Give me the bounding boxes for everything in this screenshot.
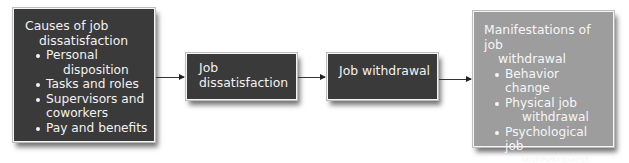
job-dissatisfaction-box: Job dissatisfaction: [186, 53, 297, 100]
causes-title-line1: Causes of job: [25, 18, 108, 33]
item-text: Psychological job: [505, 125, 587, 154]
arrow-2: [298, 77, 325, 78]
item-text-cont: disposition: [46, 63, 148, 78]
box-label-line1: Job: [199, 61, 290, 76]
arrow-3: [439, 79, 471, 80]
causes-title-line2: dissatisfaction: [25, 34, 148, 49]
job-withdrawal-box: Job withdrawal: [327, 53, 438, 100]
item-text: Pay and benefits: [46, 121, 147, 135]
list-item: Behavior change: [484, 67, 607, 96]
item-text: Physical job: [505, 96, 577, 110]
causes-list: Personal disposition Tasks and roles Sup…: [25, 48, 148, 135]
list-item: Supervisors and coworkers: [25, 92, 148, 121]
list-item: Personal disposition: [25, 48, 148, 77]
item-text-cont: withdrawal: [505, 154, 607, 163]
manifestations-title-line1: Manifestations of job: [484, 22, 591, 52]
manifestations-title: Manifestations of job withdrawal: [484, 23, 607, 67]
item-text: Supervisors and: [46, 92, 144, 106]
manifestations-title-line2: withdrawal: [484, 52, 607, 67]
list-item: Physical job withdrawal: [484, 96, 607, 125]
causes-box: Causes of job dissatisfaction Personal d…: [13, 8, 155, 142]
causes-title: Causes of job dissatisfaction: [25, 19, 148, 48]
box-label: Job withdrawal: [339, 64, 431, 79]
list-item: Tasks and roles: [25, 77, 148, 92]
item-text: Personal: [46, 48, 98, 62]
item-text-cont: withdrawal: [505, 110, 607, 125]
manifestations-box: Manifestations of job withdrawal Behavio…: [473, 11, 614, 147]
box-label-line2: dissatisfaction: [199, 76, 290, 91]
item-text: Behavior change: [505, 67, 559, 96]
list-item: Pay and benefits: [25, 121, 148, 136]
item-text-cont: coworkers: [46, 106, 148, 121]
list-item: Psychological job withdrawal: [484, 125, 607, 163]
manifestations-list: Behavior change Physical job withdrawal …: [484, 67, 607, 163]
arrow-1: [156, 77, 184, 78]
item-text: Tasks and roles: [46, 77, 139, 91]
